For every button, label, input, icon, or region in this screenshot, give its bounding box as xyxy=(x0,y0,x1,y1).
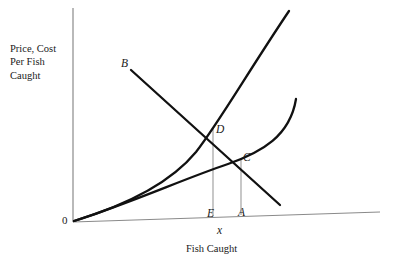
point-label-c: C xyxy=(243,150,251,165)
point-label-a: A xyxy=(238,205,245,220)
figure-canvas: Price, Cost Per Fish Caught Fish Caught … xyxy=(0,0,403,263)
y-axis-label-line-3: Caught xyxy=(10,69,56,82)
point-label-d: D xyxy=(216,122,224,137)
y-axis-label: Price, Cost Per Fish Caught xyxy=(10,42,56,82)
quantity-label-x: x xyxy=(217,223,222,238)
origin-label: 0 xyxy=(62,213,68,227)
demand-line-B xyxy=(131,70,280,205)
x-axis-line xyxy=(73,212,380,222)
x-axis-label: Fish Caught xyxy=(186,242,237,255)
point-label-e: E xyxy=(207,206,214,221)
curve-label-b: B xyxy=(121,56,128,71)
economics-diagram-svg xyxy=(0,0,403,263)
y-axis-label-line-2: Per Fish xyxy=(10,55,56,68)
shallow-cost-curve xyxy=(74,99,296,221)
y-axis-label-line-1: Price, Cost xyxy=(10,42,56,55)
